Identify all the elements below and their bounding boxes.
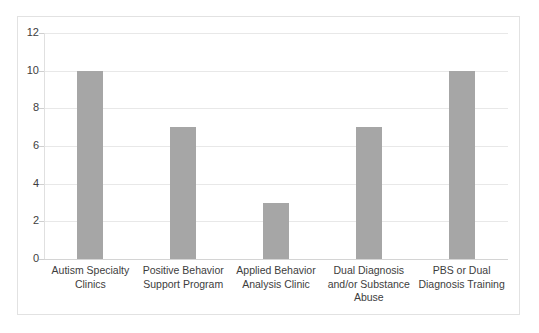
bar [170, 127, 196, 259]
y-axis-tick [39, 259, 44, 260]
y-axis-tick [39, 221, 44, 222]
bar [356, 127, 382, 259]
category-label: Positive Behavior Support Program [137, 264, 230, 310]
bar [77, 71, 103, 259]
bar [449, 71, 475, 259]
y-axis-tick [39, 71, 44, 72]
category-label: Autism Specialty Clinics [44, 264, 137, 310]
bar-chart: 024681012 Autism Specialty ClinicsPositi… [0, 0, 539, 333]
bar [263, 203, 289, 260]
y-axis-tick [39, 108, 44, 109]
y-axis-tick [39, 33, 44, 34]
category-label: Dual Diagnosis and/or Substance Abuse [322, 264, 415, 310]
category-label: PBS or Dual Diagnosis Training [415, 264, 508, 310]
x-axis-category-labels: Autism Specialty ClinicsPositive Behavio… [44, 264, 508, 310]
category-label: Applied Behavior Analysis Clinic [230, 264, 323, 310]
y-axis-tick [39, 184, 44, 185]
y-axis-tick [39, 146, 44, 147]
